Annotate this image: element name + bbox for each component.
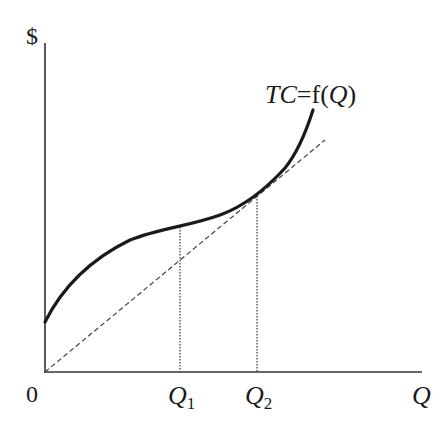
y-axis-label: $: [26, 23, 38, 49]
q2-label-base: Q: [245, 381, 264, 410]
tc-label-eq: =: [297, 80, 312, 109]
tc-diagram: $ 0 Q TC=f(Q) Q1 Q2: [0, 0, 441, 436]
q1-label: Q1: [168, 381, 195, 413]
tc-label-q: Q: [329, 80, 348, 109]
tc-label-tc: TC: [265, 80, 297, 109]
origin-label: 0: [26, 381, 38, 407]
tc-curve-label: TC=f(Q): [265, 80, 356, 109]
tc-label-close: ): [348, 80, 357, 109]
tc-curve: [45, 110, 313, 322]
q1-label-sub: 1: [187, 394, 196, 413]
q2-label-sub: 2: [264, 394, 273, 413]
x-axis-label: Q: [412, 381, 431, 410]
tc-label-f: f(: [311, 80, 328, 109]
ray-from-origin: [45, 140, 325, 372]
q2-label: Q2: [245, 381, 272, 413]
q1-label-base: Q: [168, 381, 187, 410]
